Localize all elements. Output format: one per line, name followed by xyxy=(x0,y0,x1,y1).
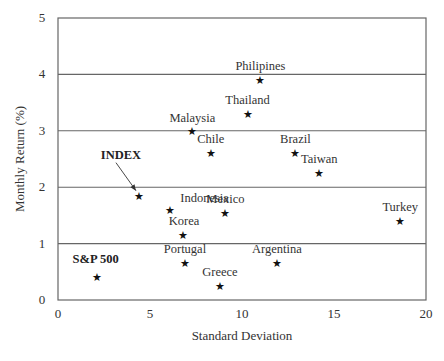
y-tick-label: 0 xyxy=(39,292,46,307)
star-marker-icon: ★ xyxy=(92,271,102,283)
x-tick-label: 0 xyxy=(55,306,62,321)
point-label: Chile xyxy=(197,132,225,146)
star-marker-icon: ★ xyxy=(272,257,282,269)
data-point: ★Philipines xyxy=(235,59,285,86)
y-tick-label: 4 xyxy=(39,66,46,81)
data-point: ★Turkey xyxy=(382,200,418,227)
y-tick-label: 5 xyxy=(39,10,46,25)
star-marker-icon: ★ xyxy=(215,280,225,292)
x-tick-label: 5 xyxy=(147,306,154,321)
point-label: Malaysia xyxy=(169,111,215,125)
point-label: Argentina xyxy=(252,242,302,256)
point-label: Taiwan xyxy=(301,152,338,166)
data-point: ★Thailand xyxy=(225,93,270,120)
data-point: ★Taiwan xyxy=(301,152,338,179)
point-label: Korea xyxy=(169,214,200,228)
star-marker-icon: ★ xyxy=(314,167,324,179)
point-label: Philipines xyxy=(235,59,285,73)
y-tick-label: 3 xyxy=(39,123,46,138)
star-marker-icon: ★ xyxy=(187,125,197,137)
x-axis-label: Standard Deviation xyxy=(192,328,293,343)
data-point: ★Argentina xyxy=(252,242,302,269)
y-tick-label: 1 xyxy=(39,236,46,251)
y-axis-label: Monthly Return (%) xyxy=(12,106,27,212)
x-tick-label: 20 xyxy=(420,306,433,321)
scatter-chart: 012345 05101520 Standard Deviation Month… xyxy=(0,0,444,361)
data-point: ★Mexico xyxy=(206,192,244,219)
star-marker-icon: ★ xyxy=(178,229,188,241)
data-point: ★Portugal xyxy=(164,242,207,269)
point-label: Greece xyxy=(202,265,238,279)
data-point: ★S&P 500 xyxy=(73,252,119,283)
index-arrow-annotation xyxy=(116,163,136,191)
x-tick-label: 15 xyxy=(328,306,341,321)
data-point: ★Korea xyxy=(169,214,200,241)
star-marker-icon: ★ xyxy=(206,147,216,159)
star-marker-icon: ★ xyxy=(220,207,230,219)
star-marker-icon: ★ xyxy=(290,147,300,159)
point-label: INDEX xyxy=(101,148,141,162)
data-point: ★INDEX xyxy=(101,148,144,202)
star-marker-icon: ★ xyxy=(255,74,265,86)
data-point: ★Greece xyxy=(202,265,238,292)
star-marker-icon: ★ xyxy=(395,215,405,227)
data-point: ★Chile xyxy=(197,132,225,159)
point-label: Brazil xyxy=(280,132,311,146)
star-marker-icon: ★ xyxy=(134,190,144,202)
point-label: S&P 500 xyxy=(73,252,119,266)
point-label: Thailand xyxy=(225,93,270,107)
star-marker-icon: ★ xyxy=(180,257,190,269)
point-label: Portugal xyxy=(164,242,207,256)
y-axis-ticks: 012345 xyxy=(39,10,46,307)
data-points: ★Philipines★Thailand★Malaysia★Chile★Braz… xyxy=(73,59,419,292)
point-label: Turkey xyxy=(382,200,418,214)
point-label: Mexico xyxy=(206,192,244,206)
y-tick-label: 2 xyxy=(39,179,46,194)
x-axis-ticks: 05101520 xyxy=(55,306,433,321)
x-tick-label: 10 xyxy=(236,306,249,321)
star-marker-icon: ★ xyxy=(243,108,253,120)
